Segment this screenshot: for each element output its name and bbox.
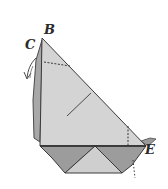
main-triangle bbox=[40, 38, 146, 146]
label-b: B bbox=[44, 23, 55, 36]
label-c: C bbox=[25, 38, 35, 51]
origami-figure bbox=[0, 0, 168, 189]
origami-diagram: B C E bbox=[0, 0, 168, 189]
fold-arrow-tail-icon bbox=[30, 66, 33, 78]
label-e: E bbox=[145, 143, 155, 156]
